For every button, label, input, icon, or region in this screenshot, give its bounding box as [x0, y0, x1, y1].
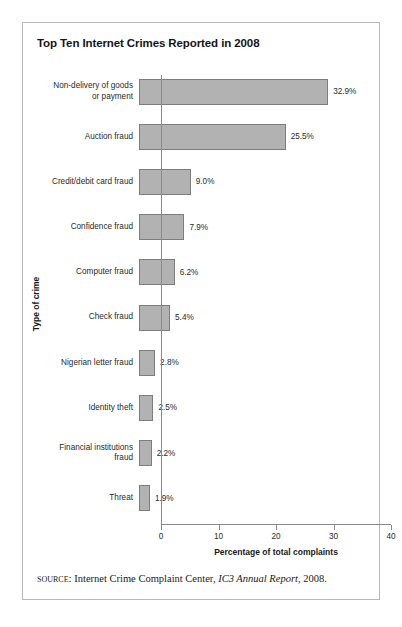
bar-value-label: 2.8%: [160, 358, 179, 367]
figure-card: Top Ten Internet Crimes Reported in 2008…: [22, 22, 380, 600]
bar-row: Credit/debit card fraud9.0%: [23, 159, 379, 204]
bar-value-label: 1.9%: [155, 494, 174, 503]
bar-category-label: Nigerian letter fraud: [23, 358, 139, 369]
bar-rows: Non-delivery of goods or payment32.9%Auc…: [23, 69, 379, 524]
x-axis-tick: [391, 525, 392, 530]
source-text-before: Internet Crime Complaint Center,: [72, 573, 219, 584]
source-text-after: , 2008.: [298, 573, 327, 584]
x-axis-tick-label: 20: [271, 532, 280, 541]
bar-zone: 2.8%: [139, 340, 379, 385]
bar-value-label: 32.9%: [333, 87, 356, 96]
bar-zone: 5.4%: [139, 295, 379, 340]
bar-row: Check fraud5.4%: [23, 295, 379, 340]
bar-value-label: 5.4%: [175, 313, 194, 322]
bar: [139, 395, 153, 421]
bar-zone: 9.0%: [139, 159, 379, 204]
x-axis-tick: [334, 525, 335, 530]
bar-category-label: Threat: [23, 493, 139, 504]
source-title: IC3 Annual Report: [218, 573, 298, 584]
bar-category-label: Check fraud: [23, 312, 139, 323]
bar-row: Threat1.9%: [23, 476, 379, 521]
bar-row: Confidence fraud7.9%: [23, 205, 379, 250]
bar-zone: 25.5%: [139, 114, 379, 159]
bar-category-label: Credit/debit card fraud: [23, 177, 139, 188]
bar-zone: 6.2%: [139, 250, 379, 295]
bar-zone: 2.2%: [139, 431, 379, 476]
bar-row: Financial institutions fraud2.2%: [23, 431, 379, 476]
x-axis-tick: [219, 525, 220, 530]
x-axis-tick-label: 0: [159, 532, 164, 541]
bar-category-label: Financial institutions fraud: [23, 443, 139, 464]
bar-zone: 32.9%: [139, 69, 379, 114]
bar-category-label: Computer fraud: [23, 267, 139, 278]
bar-row: Non-delivery of goods or payment32.9%: [23, 69, 379, 114]
x-axis-tick-label: 30: [329, 532, 338, 541]
bar-category-label: Non-delivery of goods or payment: [23, 81, 139, 102]
x-axis-tick-label: 10: [214, 532, 223, 541]
bar-row: Identity theft2.5%: [23, 385, 379, 430]
source-kicker: source:: [37, 572, 72, 584]
bar-value-label: 2.2%: [157, 449, 176, 458]
x-axis-tick-label: 40: [386, 532, 395, 541]
bar-row: Nigerian letter fraud2.8%: [23, 340, 379, 385]
x-axis-tick: [276, 525, 277, 530]
bar-row: Auction fraud25.5%: [23, 114, 379, 159]
bar-zone: 2.5%: [139, 385, 379, 430]
bar-category-label: Identity theft: [23, 403, 139, 414]
chart-plot-area: Type of crime Non-delivery of goods or p…: [23, 69, 379, 559]
bar: [139, 169, 191, 195]
bar-category-label: Confidence fraud: [23, 222, 139, 233]
page-title: Top Ten Internet Crimes Reported in 2008: [37, 37, 259, 49]
x-axis-title: Percentage of total complaints: [161, 547, 391, 557]
source-note: source: Internet Crime Complaint Center,…: [37, 572, 365, 585]
bar-value-label: 6.2%: [180, 268, 199, 277]
bar: [139, 259, 175, 285]
bar-row: Computer fraud6.2%: [23, 250, 379, 295]
y-axis-line: [161, 75, 162, 524]
bar-value-label: 9.0%: [196, 177, 215, 186]
bar: [139, 485, 150, 511]
bar: [139, 350, 155, 376]
bar: [139, 305, 170, 331]
x-axis-tick: [161, 525, 162, 530]
bar-value-label: 25.5%: [291, 132, 314, 141]
bar: [139, 440, 152, 466]
bar-zone: 7.9%: [139, 205, 379, 250]
bar-zone: 1.9%: [139, 476, 379, 521]
bar-value-label: 7.9%: [189, 223, 208, 232]
bar-category-label: Auction fraud: [23, 132, 139, 143]
bar: [139, 79, 328, 105]
